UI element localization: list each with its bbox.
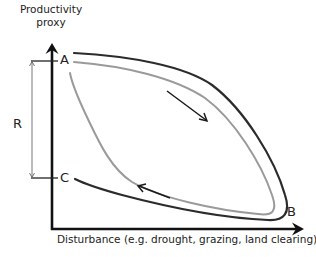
point-c-label: C xyxy=(60,171,69,184)
bracket-r-label: R xyxy=(13,117,22,130)
y-axis xyxy=(46,43,59,230)
y-axis-label: Productivity proxy xyxy=(4,3,98,29)
x-axis-label: Disturbance (e.g. drought, grazing, land… xyxy=(57,233,316,246)
inner-recovery-curve xyxy=(70,62,274,214)
point-a-label: A xyxy=(60,53,69,66)
outer-hysteresis-curve xyxy=(74,53,287,220)
diagram-canvas xyxy=(0,0,316,257)
y-axis-label-line1: Productivity xyxy=(4,3,98,16)
r-bracket xyxy=(30,61,59,178)
hysteresis-diagram: Productivity proxy A C B R Disturbance (… xyxy=(0,0,316,257)
y-axis-label-line2: proxy xyxy=(4,16,98,29)
point-b-label: B xyxy=(287,205,296,218)
